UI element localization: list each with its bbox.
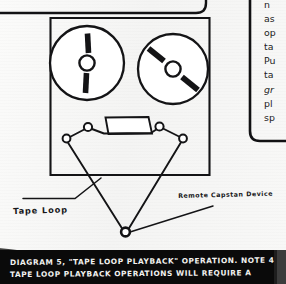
label-tape-loop: Tape Loop <box>13 204 68 216</box>
sidebar-text-line: ta <box>264 68 286 82</box>
caption-bar-edge-outer <box>277 250 286 284</box>
takeup-reel-hub <box>165 61 180 76</box>
sidebar-text-column: n as op ta Pu ta gr pl sp <box>264 0 286 125</box>
takeup-reel <box>138 34 208 104</box>
tape-ribbon-left-limb <box>66 140 124 232</box>
caption-line-1: DIAGRAM 5, "TAPE LOOP PLAYBACK" OPERATIO… <box>10 255 286 267</box>
guide-roller-inner-left <box>84 123 92 131</box>
supply-reel-spoke-lower <box>86 73 87 93</box>
remote-capstan-device <box>121 228 130 237</box>
sidebar-text-line: ta <box>264 40 286 54</box>
sidebar-text-line: pl <box>264 97 286 111</box>
tape-head-assembly <box>106 117 153 134</box>
guide-roller-outer-left <box>63 135 71 143</box>
sidebar-text-line: Pu <box>264 54 286 68</box>
sidebar-text-line: n <box>264 0 286 12</box>
sidebar-text-line: sp <box>264 111 286 125</box>
scanned-page: n as op ta Pu ta gr pl sp Tape Loop Remo… <box>0 0 286 284</box>
supply-reel <box>50 26 124 100</box>
guide-roller-inner-right <box>155 122 163 130</box>
leader-line-remote-capstan <box>130 206 213 232</box>
supply-reel-hub <box>79 55 94 70</box>
card-border-top-left <box>0 0 206 13</box>
leader-line-tape-loop <box>23 178 101 199</box>
diagram-artwork <box>0 0 286 284</box>
supply-reel-spoke-upper <box>88 34 89 54</box>
sidebar-text-line: op <box>264 26 286 40</box>
caption-bar: DIAGRAM 5, "TAPE LOOP PLAYBACK" OPERATIO… <box>0 250 286 284</box>
sidebar-text-line: as <box>264 12 286 26</box>
caption-line-2: TAPE LOOP PLAYBACK OPERATIONS WILL REQUI… <box>10 268 251 279</box>
sidebar-text-line-emphasis: gr <box>264 83 286 97</box>
guide-roller-outer-right <box>179 135 187 143</box>
